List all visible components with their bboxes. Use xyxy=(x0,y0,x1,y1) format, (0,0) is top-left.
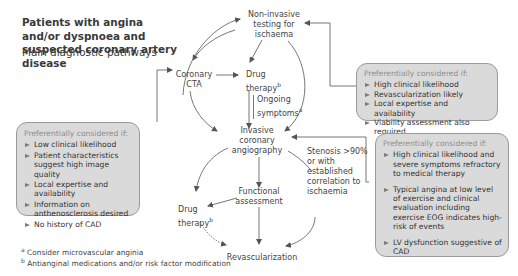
invasive-criterion: LV dysfunction suggestive of CAD xyxy=(383,238,502,257)
non-invasive-criterion: Revascularization likely xyxy=(364,90,491,99)
footnote-a: a Consider microvascular anginia xyxy=(21,246,143,257)
footnote-mark-a: a xyxy=(299,106,303,113)
cta-criterion: No history of CAD xyxy=(24,220,133,229)
cta-criterion: Local expertise and availability xyxy=(24,180,133,199)
non-invasive-box-header: Preferentially considered if: xyxy=(364,69,491,78)
non-invasive-criteria-box: Preferentially considered if: High clini… xyxy=(356,63,498,121)
node-drug-therapy-bottom: Drug therapyb xyxy=(178,205,218,229)
cta-criteria-box: Preferentially considered if: Low clinic… xyxy=(16,122,140,216)
node-non-invasive-testing: Non-invasive testing for ischaema xyxy=(235,10,313,40)
ongoing-symptoms-label: Ongoing symptoms xyxy=(257,95,299,118)
node-revascularization: Revascularization xyxy=(224,253,300,263)
page-subtitle: Main diagnostic pathways xyxy=(22,46,157,58)
invasive-criterion: High clinical likelihood and severe symp… xyxy=(383,150,502,178)
node-invasive-angiography: Invasive coronary angiography xyxy=(222,126,292,156)
drug-therapy-top-label: Drug therapy xyxy=(246,70,277,93)
invasive-box-header: Preferentially considered if: xyxy=(383,139,502,148)
non-invasive-criterion: High clinical likelihood xyxy=(364,80,491,89)
page-title: Patients with angina and/or dyspnoea and… xyxy=(22,16,182,70)
invasive-criterion: Typical angina at low level of exercise … xyxy=(383,185,502,232)
footnote-mark: b xyxy=(21,257,25,264)
non-invasive-criterion: Local expertise and availability xyxy=(364,99,491,118)
node-ongoing-symptoms: Ongoing symptomsa xyxy=(253,95,309,119)
node-drug-therapy-top: Drug therapyb xyxy=(246,70,286,94)
invasive-criteria-box: Preferentially considered if: High clini… xyxy=(375,133,509,257)
node-functional-assessment: Functional assessment xyxy=(228,187,290,207)
footnote-text: Antianginal medications and/or risk fact… xyxy=(27,259,230,268)
cta-criterion: Patient characteristics suggest high ima… xyxy=(24,151,133,179)
note-stenosis: Stenosis >90% or with established correl… xyxy=(307,147,369,197)
footnote-mark-b: b xyxy=(277,81,281,88)
cta-box-header: Preferentially considered if: xyxy=(24,129,133,138)
cta-criterion: Low clinical likelihood xyxy=(24,140,133,149)
drug-therapy-bottom-label: Drug therapy xyxy=(178,205,209,228)
footnote-mark: a xyxy=(21,246,25,253)
footnote-mark-b: b xyxy=(209,216,213,223)
cta-criterion: Information on anthenosclerosis desired xyxy=(24,200,133,219)
footnote-b: b Antianginal medications and/or risk fa… xyxy=(21,257,231,268)
node-coronary-cta: Coronary CTA xyxy=(172,70,216,90)
